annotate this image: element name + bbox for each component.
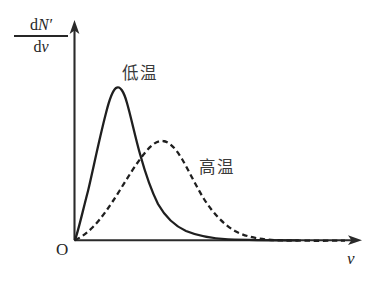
differential-d-numerator: d [30,16,38,33]
y-axis-label-denominator: dv [14,38,68,56]
low-temperature-label: 低温 [122,66,157,83]
maxwell-distribution-figure: dN′ dv O v 低温 高温 [0,0,389,284]
curve-high-temperature [75,141,345,241]
high-temperature-label: 高温 [199,160,234,177]
curve-low-temperature [75,87,298,240]
variable-n: N [38,16,49,33]
origin-label: O [56,241,68,258]
prime-mark: ′ [49,16,53,33]
variable-v-denominator: v [41,38,48,55]
y-axis-label-numerator: dN′ [14,16,68,34]
x-axis-label: v [347,250,355,267]
fraction-bar [14,35,68,37]
y-axis-label: dN′ dv [14,16,68,56]
